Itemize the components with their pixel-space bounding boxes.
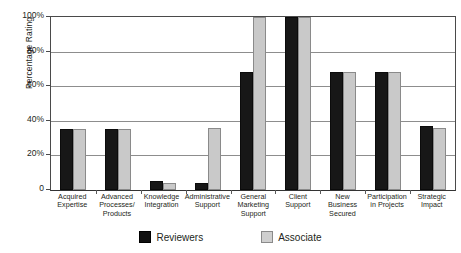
- bar-associate: [343, 72, 356, 190]
- legend-swatch-associate: [261, 231, 273, 243]
- bar-reviewers: [420, 126, 433, 190]
- x-axis-label: AcquiredExpertise: [50, 193, 95, 218]
- y-tick-label: 20%: [0, 149, 44, 158]
- x-axis-label: NewBusinessSecured: [320, 193, 365, 218]
- x-axis-label-line: Support: [232, 210, 275, 218]
- y-tick-label: 100%: [0, 11, 44, 20]
- x-axis-label-line: Support: [185, 201, 230, 209]
- legend-label: Reviewers: [156, 232, 203, 243]
- bar-groups: [51, 17, 455, 190]
- x-axis-label-line: Secured: [321, 210, 364, 218]
- x-axis-label-line: in Projects: [366, 201, 409, 209]
- legend-item[interactable]: Associate: [261, 231, 321, 243]
- bar-group: [51, 17, 96, 190]
- bar-reviewers: [60, 129, 73, 190]
- bar-associate: [163, 183, 176, 190]
- x-axis-label-line: Support: [277, 201, 320, 209]
- y-tick-label: 80%: [0, 46, 44, 55]
- y-tick-mark: [46, 85, 50, 86]
- bar-reviewers: [105, 129, 118, 190]
- legend-swatch-reviewers: [139, 231, 151, 243]
- x-axis-label-line: Impact: [410, 201, 453, 209]
- y-tick-mark: [46, 16, 50, 17]
- bar-reviewers: [195, 183, 208, 190]
- x-axis-label: KnowledgeIntegration: [139, 193, 184, 218]
- y-tick-mark: [46, 189, 50, 190]
- bar-reviewers: [375, 72, 388, 190]
- x-axis-label: StrategicImpact: [409, 193, 454, 218]
- bar-reviewers: [240, 72, 253, 190]
- bar-reviewers: [150, 181, 163, 190]
- x-axis-label: AdministrativeSupport: [184, 193, 231, 218]
- y-tick-label: 60%: [0, 80, 44, 89]
- bar-group: [410, 17, 455, 190]
- x-axis-label: ClientSupport: [276, 193, 321, 218]
- bar-reviewers: [330, 72, 343, 190]
- bar-associate: [298, 17, 311, 190]
- bar-group: [320, 17, 365, 190]
- y-tick-label: 0: [0, 184, 44, 193]
- x-axis-label: Participationin Projects: [365, 193, 410, 218]
- chart-title-clipped: [0, 0, 461, 7]
- chart-legend: ReviewersAssociate: [0, 231, 461, 243]
- bar-associate: [118, 129, 131, 190]
- x-axis-label: GeneralMarketingSupport: [231, 193, 276, 218]
- bar-group: [275, 17, 320, 190]
- y-tick-mark: [46, 120, 50, 121]
- plot-area: [50, 16, 456, 191]
- x-axis-label-line: Products: [96, 210, 139, 218]
- bar-chart: Percentage Rating 020%40%60%80%100% Acqu…: [0, 0, 461, 253]
- bar-group: [186, 17, 231, 190]
- legend-label: Associate: [278, 232, 321, 243]
- x-axis-label-line: Integration: [140, 201, 183, 209]
- x-axis-label-line: Expertise: [51, 201, 94, 209]
- legend-item[interactable]: Reviewers: [139, 231, 203, 243]
- bar-associate: [208, 128, 221, 190]
- bar-group: [365, 17, 410, 190]
- bar-reviewers: [285, 17, 298, 190]
- y-tick-mark: [46, 154, 50, 155]
- bar-associate: [433, 128, 446, 190]
- bar-associate: [73, 129, 86, 190]
- y-tick-label: 40%: [0, 115, 44, 124]
- bar-associate: [253, 17, 266, 190]
- x-axis-label: AdvancedProcesses/Products: [95, 193, 140, 218]
- bar-group: [96, 17, 141, 190]
- bar-associate: [388, 72, 401, 190]
- bar-group: [141, 17, 186, 190]
- x-axis-labels: AcquiredExpertiseAdvancedProcesses/Produ…: [50, 193, 454, 218]
- bar-group: [231, 17, 276, 190]
- y-tick-mark: [46, 51, 50, 52]
